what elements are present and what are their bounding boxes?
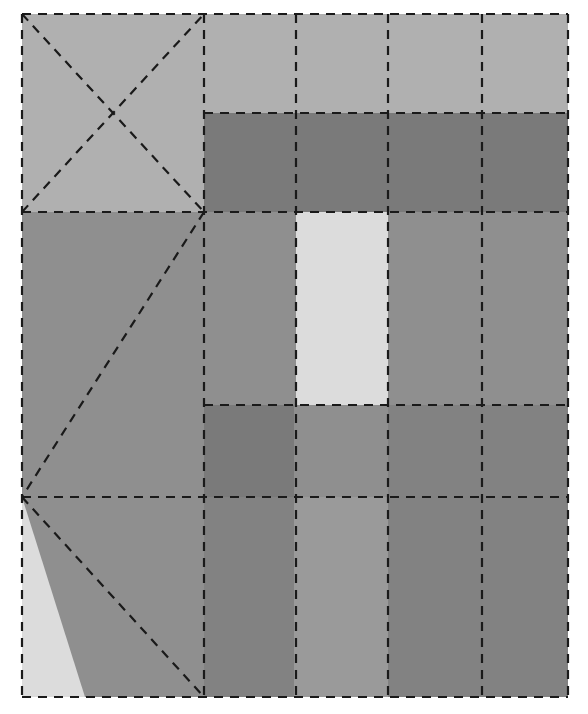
bottom-column-left	[204, 497, 294, 697]
mid-column-left	[204, 212, 296, 405]
geometry-figure	[0, 0, 588, 714]
lower-band-left-cell	[204, 405, 294, 497]
top-strip-cell-3	[388, 14, 482, 113]
top-strip-cell-4	[482, 14, 568, 113]
top-strip-cell-1	[204, 14, 296, 113]
dark-banner-band	[204, 113, 568, 212]
bottom-column-mid	[294, 497, 388, 697]
lower-band-mid-cell	[294, 405, 388, 497]
top-strip-cell-2	[296, 14, 388, 113]
figure-canvas	[0, 0, 588, 714]
mid-column-highlight	[296, 212, 388, 405]
bottom-column-right	[388, 497, 568, 697]
mid-column-right	[388, 212, 568, 405]
lower-band-right-cell	[388, 405, 568, 497]
